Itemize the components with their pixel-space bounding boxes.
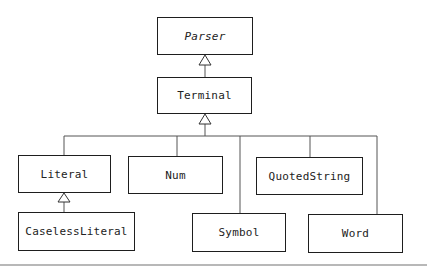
inheritance-arrow-icon (199, 114, 211, 124)
class-label: Terminal (177, 89, 232, 102)
class-num: Num (128, 156, 223, 194)
class-label: Symbol (219, 226, 260, 239)
page-divider (0, 264, 427, 266)
class-literal: Literal (18, 155, 111, 193)
class-label: Parser (185, 30, 226, 43)
class-label: Literal (41, 168, 89, 181)
class-terminal: Terminal (157, 77, 252, 114)
class-label: Word (342, 227, 369, 240)
class-word: Word (308, 214, 403, 253)
class-quotedstring: QuotedString (256, 157, 363, 195)
class-label: QuotedString (269, 170, 351, 183)
inheritance-arrow-icon (199, 55, 211, 65)
class-symbol: Symbol (192, 213, 286, 252)
class-parser: Parser (157, 17, 253, 55)
class-caselessliteral: CaselessLiteral (18, 212, 135, 251)
class-label: CaselessLiteral (25, 225, 127, 238)
inheritance-arrow-icon (58, 193, 70, 202)
class-label: Num (165, 169, 185, 182)
class-diagram: Parser Terminal Literal Num QuotedString… (0, 0, 427, 268)
